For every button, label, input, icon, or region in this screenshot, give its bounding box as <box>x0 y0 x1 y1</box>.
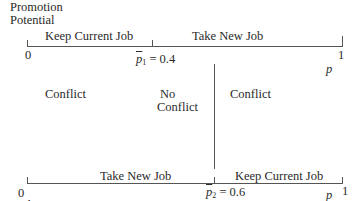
top-axis-tick-0 <box>27 40 28 47</box>
bottom-axis-title-line1: Job <box>17 199 34 201</box>
top-segment-keep-current-job: Keep Current Job <box>45 30 133 43</box>
bottom-segment-take-new-job: Take New Job <box>100 170 171 183</box>
bottom-axis-line <box>27 183 343 184</box>
threshold-value: = 0.4 <box>149 52 175 66</box>
subscript-1: 1 <box>142 58 146 67</box>
region-left-conflict: Conflict <box>45 88 86 101</box>
bottom-axis-tick-0 <box>27 177 28 184</box>
top-axis-tick-threshold <box>152 40 153 47</box>
top-axis-title-line2: Potential <box>10 14 54 27</box>
top-axis-line <box>27 46 343 47</box>
top-threshold-label: p1 = 0.4 <box>136 53 175 69</box>
region-right-conflict: Conflict <box>230 88 271 101</box>
bottom-threshold-label: p2 = 0.6 <box>206 186 245 201</box>
top-axis-one-label: 1 <box>338 49 344 62</box>
threshold-value: = 0.6 <box>219 185 245 199</box>
top-axis-tick-1 <box>342 36 343 47</box>
bottom-segment-keep-current-job: Keep Current Job <box>235 170 323 183</box>
top-segment-take-new-job: Take New Job <box>192 30 263 43</box>
top-axis-variable-p: p <box>326 63 332 76</box>
region-divider <box>214 64 215 169</box>
bottom-axis-tick-threshold <box>214 177 215 184</box>
bottom-axis-tick-1 <box>342 177 343 184</box>
bottom-axis-variable-p: p <box>326 189 332 201</box>
subscript-2: 2 <box>212 191 216 200</box>
top-axis-zero-label: 0 <box>25 49 31 62</box>
bottom-axis-one-label: 1 <box>342 185 348 198</box>
region-middle-conflict: Conflict <box>157 101 198 114</box>
